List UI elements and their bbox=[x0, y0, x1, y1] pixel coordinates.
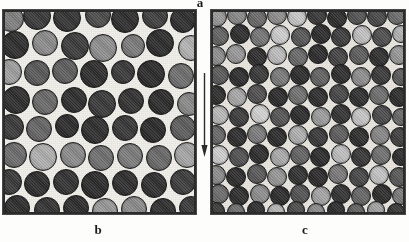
disc bbox=[247, 164, 267, 184]
disc bbox=[211, 105, 229, 125]
disc bbox=[211, 46, 226, 66]
disc bbox=[3, 59, 22, 85]
disc bbox=[34, 197, 60, 214]
disc bbox=[24, 171, 50, 197]
disc bbox=[270, 67, 290, 87]
disc bbox=[249, 144, 269, 164]
disc bbox=[389, 45, 405, 65]
disc bbox=[372, 105, 392, 125]
disc bbox=[112, 170, 138, 196]
panel-label-b: b bbox=[84, 222, 112, 238]
disc bbox=[247, 10, 267, 28]
disc bbox=[389, 87, 405, 107]
disc bbox=[267, 167, 287, 187]
disc bbox=[349, 127, 369, 147]
disc bbox=[270, 25, 290, 45]
disc bbox=[387, 203, 405, 214]
disc bbox=[227, 87, 247, 107]
disc bbox=[121, 34, 145, 58]
disc bbox=[3, 169, 22, 195]
disc bbox=[287, 201, 305, 214]
disc bbox=[367, 201, 385, 214]
panel-b-loose-packing bbox=[3, 10, 196, 214]
disc bbox=[247, 84, 267, 104]
disc bbox=[308, 167, 328, 187]
disc bbox=[367, 10, 387, 27]
disc bbox=[53, 169, 79, 195]
disc bbox=[307, 10, 327, 25]
disc bbox=[179, 196, 196, 214]
disc bbox=[89, 34, 117, 62]
disc bbox=[270, 147, 290, 167]
disc bbox=[174, 142, 196, 168]
disc bbox=[211, 10, 227, 27]
disc bbox=[211, 184, 229, 204]
disc bbox=[331, 64, 351, 84]
disc bbox=[55, 114, 79, 138]
disc bbox=[148, 89, 174, 115]
disc bbox=[270, 107, 290, 127]
disc bbox=[211, 145, 229, 165]
disc bbox=[52, 58, 78, 84]
disc bbox=[211, 85, 226, 105]
disc bbox=[287, 10, 307, 27]
disc bbox=[229, 107, 249, 127]
disc bbox=[351, 107, 371, 127]
disc bbox=[247, 201, 265, 214]
disc bbox=[328, 164, 348, 184]
disc bbox=[88, 90, 116, 118]
disc bbox=[331, 27, 351, 47]
disc bbox=[311, 24, 331, 44]
disc bbox=[229, 147, 249, 167]
disc bbox=[23, 10, 51, 30]
disc bbox=[3, 10, 24, 32]
panel-c-discs bbox=[213, 12, 403, 212]
disc bbox=[371, 65, 391, 85]
disc bbox=[24, 60, 50, 86]
disc bbox=[290, 105, 310, 125]
disc bbox=[111, 10, 139, 33]
disc bbox=[142, 10, 168, 29]
disc bbox=[387, 10, 405, 25]
disc bbox=[372, 27, 392, 47]
disc bbox=[170, 10, 196, 33]
disc bbox=[81, 171, 109, 199]
disc bbox=[32, 89, 58, 115]
disc bbox=[288, 47, 308, 67]
disc bbox=[4, 195, 30, 214]
disc bbox=[211, 65, 229, 85]
disc bbox=[53, 10, 81, 32]
disc bbox=[352, 25, 372, 45]
disc bbox=[267, 10, 287, 25]
disc bbox=[117, 143, 143, 169]
disc bbox=[3, 114, 24, 140]
disc bbox=[327, 201, 345, 214]
disc bbox=[26, 116, 52, 142]
disc bbox=[308, 127, 328, 147]
disc bbox=[390, 127, 405, 147]
panel-c-dense-packing bbox=[211, 10, 405, 214]
disc bbox=[290, 65, 310, 85]
disc bbox=[307, 203, 325, 214]
disc bbox=[61, 87, 87, 113]
disc bbox=[170, 115, 196, 141]
disc bbox=[347, 203, 365, 214]
disc bbox=[369, 85, 389, 105]
disc bbox=[392, 68, 405, 86]
disc bbox=[329, 124, 349, 144]
disc bbox=[331, 144, 351, 164]
disc bbox=[229, 67, 249, 87]
disc bbox=[250, 104, 270, 124]
disc bbox=[310, 147, 330, 167]
disc bbox=[118, 88, 144, 114]
disc bbox=[370, 125, 390, 145]
disc bbox=[81, 116, 109, 144]
disc bbox=[121, 196, 147, 214]
disc bbox=[211, 202, 225, 214]
disc bbox=[267, 127, 287, 147]
disc bbox=[227, 127, 247, 147]
disc bbox=[249, 64, 269, 84]
disc bbox=[327, 10, 347, 28]
disc bbox=[349, 167, 369, 187]
disc bbox=[268, 87, 288, 107]
